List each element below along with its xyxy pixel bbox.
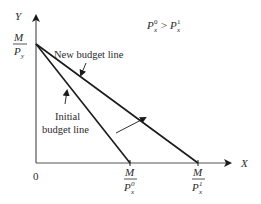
svg-text:0: 0 — [131, 180, 135, 188]
svg-text:M: M — [13, 31, 24, 43]
svg-text:1: 1 — [199, 180, 203, 188]
svg-text:>: > — [161, 19, 167, 31]
y-intercept-label: M P y — [13, 31, 27, 60]
svg-text:P: P — [13, 45, 21, 57]
svg-text:P: P — [123, 181, 131, 193]
svg-text:M: M — [192, 166, 203, 178]
new-budget-line — [36, 44, 198, 163]
new-budget-line-label: New budget line — [54, 49, 124, 60]
new-budget-line-pointer — [81, 63, 86, 75]
initial-budget-line-label-1: Initial — [55, 111, 80, 122]
svg-text:y: y — [20, 52, 25, 60]
initial-budget-line-label-2: budget line — [42, 124, 89, 135]
svg-text:x: x — [176, 26, 181, 34]
x-intercept-label-new: M P 1 x — [191, 166, 205, 196]
x-intercept-label-initial: M P 0 x — [123, 166, 137, 196]
svg-text:x: x — [153, 26, 158, 34]
price-condition: P 0 x > P 1 x — [146, 18, 181, 34]
svg-text:P: P — [169, 19, 177, 31]
svg-text:P: P — [146, 19, 154, 31]
origin-label: 0 — [33, 170, 39, 182]
budget-line-diagram: Y X 0 M P y New budget line Initial budg… — [0, 0, 261, 204]
svg-text:x: x — [198, 188, 203, 196]
svg-text:P: P — [191, 181, 199, 193]
shift-arrow — [116, 118, 145, 133]
initial-budget-line-pointer — [65, 91, 67, 104]
svg-text:1: 1 — [177, 18, 181, 26]
x-axis-label: X — [240, 157, 249, 169]
svg-text:M: M — [124, 166, 135, 178]
y-axis-label: Y — [15, 10, 23, 22]
svg-text:0: 0 — [154, 18, 158, 26]
svg-text:x: x — [130, 188, 135, 196]
